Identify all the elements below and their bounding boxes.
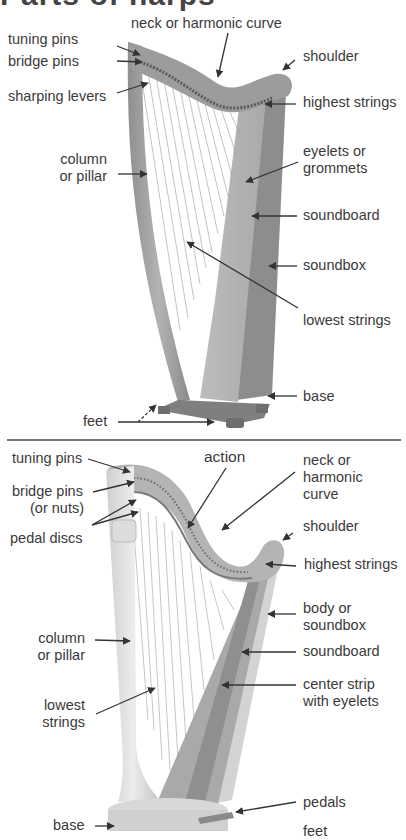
label-tuning-pins: tuning pins (8, 31, 78, 48)
label-body-line2: soundbox (303, 617, 366, 634)
label-sharping-levers: sharping levers (8, 88, 106, 105)
label-pedal-discs: pedal discs (10, 530, 83, 547)
label-shoulder: shoulder (303, 48, 359, 65)
label-column-2-line1: column (20, 630, 85, 647)
label-lowest-strings: lowest strings (303, 312, 391, 329)
label-neck-line3: curve (303, 486, 338, 503)
label-highest-strings-2: highest strings (304, 556, 398, 573)
label-eyelets-line2: grommets (303, 160, 367, 177)
pedal-harp-drawing (106, 465, 284, 831)
label-body-line1: body or (303, 600, 351, 617)
label-shoulder-2: shoulder (303, 518, 359, 535)
section-divider (7, 439, 401, 441)
label-neck-line1: neck or (303, 452, 351, 469)
label-bridge-pins: bridge pins (8, 53, 79, 70)
label-lowest-strings-2-line1: lowest (20, 697, 85, 714)
label-column-line1: column (50, 151, 107, 168)
label-highest-strings: highest strings (303, 94, 397, 111)
label-neck: neck or harmonic curve (131, 15, 282, 32)
label-bridge-pins-line1: bridge pins (12, 483, 83, 500)
label-soundboard: soundboard (303, 207, 380, 224)
label-pedals: pedals (303, 794, 346, 811)
label-neck-line2: harmonic (303, 469, 363, 486)
label-soundboard-2: soundboard (303, 643, 380, 660)
label-feet-2: feet (303, 823, 327, 840)
lever-harp-drawing (128, 42, 292, 428)
label-soundbox: soundbox (303, 257, 366, 274)
label-center-strip-line1: center strip (303, 676, 375, 693)
label-column-2-line2: or pillar (20, 647, 85, 664)
label-tuning-pins-2: tuning pins (12, 450, 82, 467)
label-base-2: base (53, 817, 84, 834)
label-lowest-strings-2-line2: strings (20, 714, 85, 731)
label-base: base (303, 388, 334, 405)
label-column-line2: or pillar (40, 168, 107, 185)
label-bridge-pins-line2: (or nuts) (12, 500, 84, 517)
label-center-strip-line2: with eyelets (303, 693, 379, 710)
label-action: action (204, 448, 245, 465)
label-feet: feet (83, 413, 107, 430)
label-eyelets-line1: eyelets or (303, 143, 366, 160)
